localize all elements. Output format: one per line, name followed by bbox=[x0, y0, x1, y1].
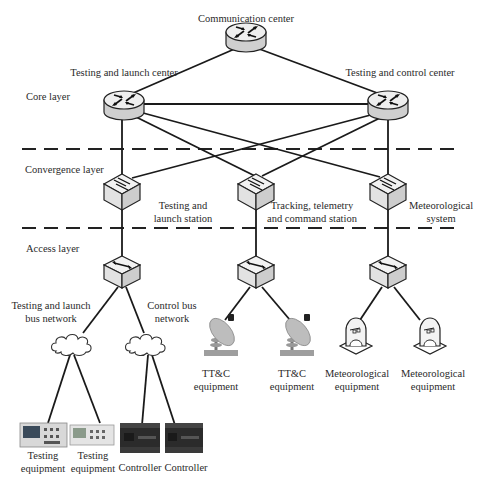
label-equipment: Meteorological equipment bbox=[398, 368, 468, 393]
label-line: equipment bbox=[68, 463, 118, 476]
access-switch-icon-3 bbox=[370, 256, 406, 288]
layer-label-convergence: Convergence layer bbox=[25, 164, 104, 177]
label-line: and command station bbox=[262, 213, 362, 226]
label-equipment: Meteorological equipment bbox=[322, 368, 392, 393]
access-switch-icon-2 bbox=[238, 256, 274, 288]
label-equipment: Controller bbox=[116, 462, 164, 475]
label-line: bus network bbox=[8, 313, 94, 326]
label-equipment: TT&C equipment bbox=[188, 368, 244, 393]
label-meteorological-system: Meteorological system bbox=[406, 200, 476, 225]
label-line: equipment bbox=[18, 463, 68, 476]
plc-controller-icon-2 bbox=[165, 423, 203, 453]
satellite-dish-icon-2 bbox=[280, 314, 315, 356]
label-line: Tracking, telemetry bbox=[262, 200, 362, 213]
label-line: Testing bbox=[18, 450, 68, 463]
oscilloscope-icon-1 bbox=[20, 423, 67, 447]
label-testing-launch-center: Testing and launch center bbox=[64, 67, 184, 80]
label-line: TT&C bbox=[264, 368, 320, 381]
label-line: Controller bbox=[116, 462, 164, 475]
label-equipment: Testing equipment bbox=[68, 450, 118, 475]
oscilloscope-icon-2 bbox=[70, 425, 114, 445]
label-line: equipment bbox=[188, 381, 244, 394]
switch-icon-testing-launch-station bbox=[104, 174, 140, 210]
label-line: equipment bbox=[322, 381, 392, 394]
label-equipment: Controller bbox=[162, 462, 210, 475]
router-icon-communication-center bbox=[226, 23, 266, 52]
label-line: equipment bbox=[264, 381, 320, 394]
label-line: Testing and launch bbox=[8, 300, 94, 313]
satellite-dish-icon-1 bbox=[204, 314, 239, 356]
label-line: Meteorological bbox=[398, 368, 468, 381]
label-equipment: TT&C equipment bbox=[264, 368, 320, 393]
label-line: Meteorological bbox=[322, 368, 392, 381]
label-ttc-station: Tracking, telemetry and command station bbox=[262, 200, 362, 225]
cloud-icon-testing-launch-bus bbox=[52, 335, 92, 356]
label-line: system bbox=[406, 213, 476, 226]
layer-label-access: Access layer bbox=[26, 243, 79, 256]
label-line: equipment bbox=[398, 381, 468, 394]
weather-radar-icon-2 bbox=[414, 318, 446, 354]
label-line: TT&C bbox=[188, 368, 244, 381]
plc-controller-icon-1 bbox=[120, 423, 160, 453]
network-architecture-diagram: Core layer Convergence layer Access laye… bbox=[0, 0, 485, 484]
switch-icon-meteorological-system bbox=[370, 174, 406, 210]
label-line: Testing and bbox=[140, 200, 226, 213]
label-line: Meteorological bbox=[406, 200, 476, 213]
label-line: Testing bbox=[68, 450, 118, 463]
access-switch-icon-1 bbox=[104, 256, 140, 288]
label-testing-launch-bus-network: Testing and launch bus network bbox=[8, 300, 94, 325]
label-line: Controller bbox=[162, 462, 210, 475]
label-communication-center: Communication center bbox=[196, 13, 296, 26]
layer-label-core: Core layer bbox=[26, 91, 70, 104]
label-line: network bbox=[144, 313, 200, 326]
weather-radar-icon-1 bbox=[340, 318, 372, 354]
label-equipment: Testing equipment bbox=[18, 450, 68, 475]
label-testing-launch-station: Testing and launch station bbox=[140, 200, 226, 225]
label-line: Control bus bbox=[144, 300, 200, 313]
router-icon-testing-control-center bbox=[368, 91, 408, 120]
label-testing-control-center: Testing and control center bbox=[338, 67, 462, 80]
label-control-bus-network: Control bus network bbox=[144, 300, 200, 325]
label-line: launch station bbox=[140, 213, 226, 226]
router-icon-testing-launch-center bbox=[104, 91, 144, 120]
cloud-icon-control-bus bbox=[126, 335, 166, 356]
